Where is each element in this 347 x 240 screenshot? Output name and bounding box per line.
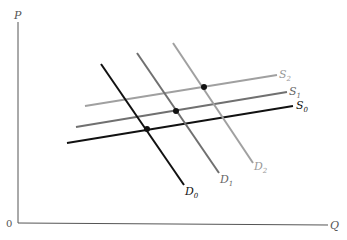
supply-demand-chart: P Q 0 S2 S1 S0 D0 D1 D2 <box>0 0 347 240</box>
label-s2: S2 <box>279 68 292 83</box>
x-axis-label: Q <box>330 219 339 232</box>
y-axis-label: P <box>13 9 22 22</box>
equilibrium-point-e2 <box>201 84 207 90</box>
x-axis <box>18 223 328 225</box>
equilibrium-point-e1 <box>173 108 179 114</box>
label-d1: D1 <box>219 173 233 188</box>
demand-curve-d0 <box>101 64 184 185</box>
label-d0: D0 <box>184 185 199 200</box>
label-d2: D2 <box>253 160 268 175</box>
label-s0: S0 <box>296 99 309 114</box>
equilibrium-point-e0 <box>144 126 150 132</box>
supply-curve-s1 <box>76 92 287 127</box>
origin-label: 0 <box>6 218 12 229</box>
demand-curve-d2 <box>173 43 253 163</box>
label-s1: S1 <box>289 85 301 100</box>
supply-curve-s2 <box>85 75 277 106</box>
supply-curve-s0 <box>67 106 293 143</box>
